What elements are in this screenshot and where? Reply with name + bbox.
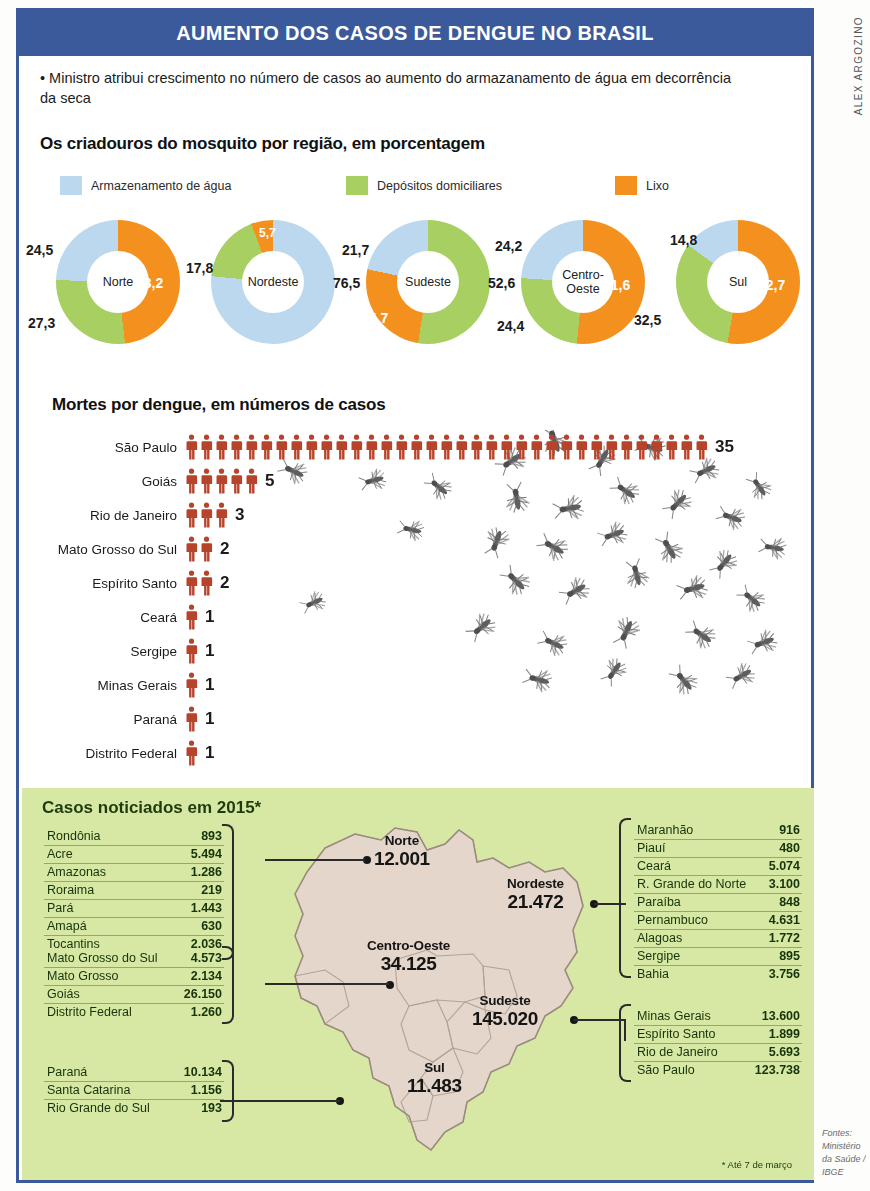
table-row: Alagoas1.772 — [634, 930, 802, 948]
table-row: Maranhão916 — [634, 822, 802, 840]
state-value: 480 — [779, 841, 800, 856]
deaths-count-goias: 5 — [265, 471, 274, 491]
map-region-name-centro-oeste: Centro-Oeste — [367, 938, 450, 953]
state-value: 916 — [779, 823, 800, 838]
state-name: R. Grande do Norte — [637, 877, 746, 892]
state-name: Distrito Federal — [47, 1005, 132, 1020]
donut-value-nordeste-orange: 5,7 — [259, 226, 276, 240]
donut-value-sudeste-blue: 21,7 — [342, 242, 369, 258]
table-row: Piauí480 — [634, 840, 802, 858]
deaths-count-parana: 1 — [205, 709, 214, 729]
donut-value-norte-green: 27,3 — [28, 315, 55, 331]
deaths-count-distrito-federal: 1 — [205, 743, 214, 763]
person-icon — [199, 570, 214, 596]
donut-chart-centro-oeste: Centro-Oeste 24,2 24,4 51,6 — [521, 220, 645, 344]
state-name: Acre — [47, 847, 73, 862]
person-icon — [439, 434, 454, 460]
map-region-value-centro-oeste: 34.125 — [367, 953, 450, 975]
state-name: Ceará — [637, 859, 671, 874]
lede-paragraph: • Ministro atribui crescimento no número… — [40, 68, 740, 108]
table-row: Ceará5.074 — [634, 858, 802, 876]
deaths-count-sergipe: 1 — [205, 641, 214, 661]
deaths-row-distrito-federal: Distrito Federal 1 — [24, 738, 214, 768]
deaths-label-rio-de-janeiro: Rio de Janeiro — [24, 508, 184, 523]
donut-center-label-sudeste: Sudeste — [397, 251, 459, 313]
state-value: 219 — [201, 883, 222, 898]
legend: Armazenamento de água Depósitos domicili… — [60, 176, 760, 198]
illustrator-credit: ALEX ARGOZINO — [853, 16, 864, 115]
legend-label-armazenamento: Armazenamento de água — [91, 179, 231, 193]
deaths-count-rio-de-janeiro: 3 — [235, 505, 244, 525]
table-row: Sergipe895 — [634, 948, 802, 966]
table-centro-oeste: Mato Grosso do Sul4.573 Mato Grosso2.134… — [44, 950, 224, 1021]
map-region-value-sudeste: 145.020 — [472, 1008, 538, 1030]
map-region-value-sul: 11.483 — [407, 1075, 462, 1097]
map-region-value-nordeste: 21.472 — [507, 891, 564, 913]
state-name: Santa Catarina — [47, 1083, 130, 1098]
legend-label-depositos: Depósitos domiciliares — [377, 179, 502, 193]
table-row: Pará1.443 — [44, 900, 224, 918]
table-row: R. Grande do Norte3.100 — [634, 876, 802, 894]
brazil-map — [277, 810, 607, 1172]
person-icon — [694, 434, 709, 460]
state-name: Minas Gerais — [637, 1009, 711, 1024]
infographic-page: AUMENTO DOS CASOS DE DENGUE NO BRASIL AL… — [0, 0, 870, 1191]
map-footnote: * Até 7 de março — [722, 1159, 792, 1170]
person-icon — [409, 434, 424, 460]
donut-chart-norte: Norte 24,5 27,3 48,2 — [56, 220, 180, 344]
deaths-icons-minas-gerais — [184, 672, 199, 698]
state-name: Rio de Janeiro — [637, 1045, 718, 1060]
source-credit: Fontes: Ministério da Saúde / IBGE — [822, 1127, 866, 1179]
deaths-icons-ceara — [184, 604, 199, 630]
table-row: Roraima219 — [44, 882, 224, 900]
table-row: Goiás26.150 — [44, 986, 224, 1004]
donut-value-centro-oeste-orange: 51,6 — [603, 277, 630, 293]
state-name: São Paulo — [637, 1063, 695, 1078]
table-row: Bahia3.756 — [634, 966, 802, 983]
brace-nordeste — [619, 818, 631, 978]
person-icon — [184, 536, 199, 562]
donut-chart-group: Norte 24,5 27,3 48,2 Nordeste 76,5 17,8 … — [24, 212, 804, 362]
brace-sudeste — [619, 1004, 631, 1082]
deaths-icons-rio-de-janeiro — [184, 502, 229, 528]
map-leader-sul — [220, 1100, 340, 1102]
person-icon — [214, 502, 229, 528]
person-icon — [544, 434, 559, 460]
map-region-name-norte: Norte — [374, 833, 430, 848]
table-row: Distrito Federal1.260 — [44, 1004, 224, 1021]
table-row: Paraná10.134 — [44, 1064, 224, 1082]
person-icon — [229, 434, 244, 460]
map-region-name-sudeste: Sudeste — [472, 993, 538, 1008]
source-credit-text: Fontes: Ministério da Saúde / IBGE — [822, 1128, 866, 1177]
deaths-count-minas-gerais: 1 — [205, 675, 214, 695]
donut-center-label-nordeste: Nordeste — [242, 251, 304, 313]
state-value: 5.693 — [769, 1045, 800, 1060]
person-icon — [184, 434, 199, 460]
person-icon — [499, 434, 514, 460]
table-norte: Rondônia893 Acre5.494 Amazonas1.286 Rora… — [44, 828, 224, 953]
map-label-sudeste: Sudeste 145.020 — [472, 993, 538, 1030]
person-icon — [589, 434, 604, 460]
state-name: Amazonas — [47, 865, 106, 880]
map-label-centro-oeste: Centro-Oeste 34.125 — [367, 938, 450, 975]
table-row: Acre5.494 — [44, 846, 224, 864]
deaths-label-mato-grosso-do-sul: Mato Grosso do Sul — [24, 542, 184, 557]
table-sul: Paraná10.134 Santa Catarina1.156 Rio Gra… — [44, 1064, 224, 1117]
person-icon — [199, 434, 214, 460]
person-icon — [619, 434, 634, 460]
state-name: Espírito Santo — [637, 1027, 716, 1042]
person-icon — [394, 434, 409, 460]
state-name: Paraíba — [637, 895, 681, 910]
person-icon — [454, 434, 469, 460]
state-value: 2.134 — [191, 969, 222, 984]
donut-value-centro-oeste-blue: 24,2 — [495, 238, 522, 254]
table-row: São Paulo123.738 — [634, 1062, 802, 1079]
donut-value-sul-orange: 52,7 — [758, 277, 785, 293]
table-row: Rio de Janeiro5.693 — [634, 1044, 802, 1062]
person-icon — [184, 468, 199, 494]
state-value: 123.738 — [755, 1063, 800, 1078]
state-name: Piauí — [637, 841, 666, 856]
table-row: Santa Catarina1.156 — [44, 1082, 224, 1100]
state-name: Alagoas — [637, 931, 682, 946]
table-sudeste: Minas Gerais13.600 Espírito Santo1.899 R… — [634, 1008, 802, 1079]
